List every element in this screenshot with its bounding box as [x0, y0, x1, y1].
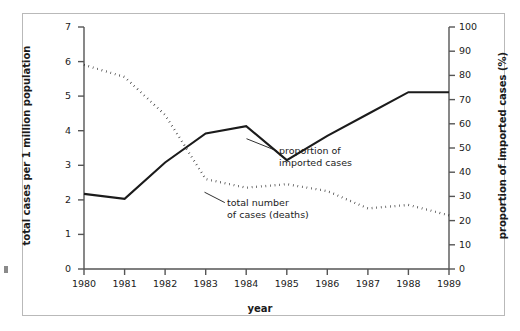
- right-tick-label-30: 30: [459, 190, 489, 201]
- y-axis-right-title: proportion of imported cases (%): [497, 36, 508, 256]
- proportion-annotation-line-1: proportion of: [279, 145, 352, 157]
- cases-annotation-leader: [205, 192, 225, 202]
- left-tick-label-1: 1: [45, 228, 71, 239]
- left-tick-label-6: 6: [45, 56, 71, 67]
- left-tick-label-4: 4: [45, 125, 71, 136]
- right-tick-label-60: 60: [459, 118, 489, 129]
- left-axis-ticks: [78, 27, 84, 269]
- chart-figure: 0 1 2 3 4 5 6 7 0 10 20 30 40 50 60 70 8…: [0, 0, 520, 331]
- right-tick-label-90: 90: [459, 45, 489, 56]
- x-axis-ticks: [84, 269, 449, 275]
- cases-annotation: total number of cases (deaths): [227, 197, 309, 221]
- plot-canvas: [23, 14, 504, 315]
- proportion-annotation: proportion of imported cases: [279, 145, 352, 169]
- right-tick-label-20: 20: [459, 215, 489, 226]
- right-tick-label-100: 100: [459, 21, 489, 32]
- proportion-annotation-leader: [247, 139, 277, 151]
- left-tick-label-5: 5: [45, 90, 71, 101]
- right-tick-label-70: 70: [459, 94, 489, 105]
- right-tick-label-40: 40: [459, 166, 489, 177]
- x-tick-label-1986: 1986: [307, 278, 347, 289]
- right-tick-label-10: 10: [459, 239, 489, 250]
- chart-frame: 0 1 2 3 4 5 6 7 0 10 20 30 40 50 60 70 8…: [22, 13, 505, 316]
- x-tick-label-1980: 1980: [64, 278, 104, 289]
- x-tick-label-1988: 1988: [388, 278, 428, 289]
- proportion-annotation-line-2: imported cases: [279, 157, 352, 169]
- x-tick-label-1984: 1984: [226, 278, 266, 289]
- right-tick-label-80: 80: [459, 69, 489, 80]
- series-proportion-imported-cases: [84, 92, 449, 199]
- y-axis-left-title: total cases per 1 million population: [21, 36, 32, 256]
- x-tick-label-1985: 1985: [267, 278, 307, 289]
- x-axis-title: year: [0, 303, 520, 314]
- x-tick-label-1981: 1981: [105, 278, 145, 289]
- page-edge-artifact: [4, 266, 8, 273]
- x-tick-label-1982: 1982: [145, 278, 185, 289]
- series-total-cases-deaths: [84, 65, 449, 215]
- left-tick-label-2: 2: [45, 194, 71, 205]
- right-tick-label-0: 0: [459, 263, 489, 274]
- left-tick-label-0: 0: [45, 263, 71, 274]
- right-tick-label-50: 50: [459, 142, 489, 153]
- left-tick-label-7: 7: [45, 21, 71, 32]
- right-axis-ticks: [449, 27, 455, 269]
- cases-annotation-line-1: total number: [227, 197, 309, 209]
- left-tick-label-3: 3: [45, 159, 71, 170]
- x-tick-label-1987: 1987: [348, 278, 388, 289]
- x-tick-label-1983: 1983: [186, 278, 226, 289]
- cases-annotation-line-2: of cases (deaths): [227, 209, 309, 221]
- x-tick-label-1989: 1989: [429, 278, 469, 289]
